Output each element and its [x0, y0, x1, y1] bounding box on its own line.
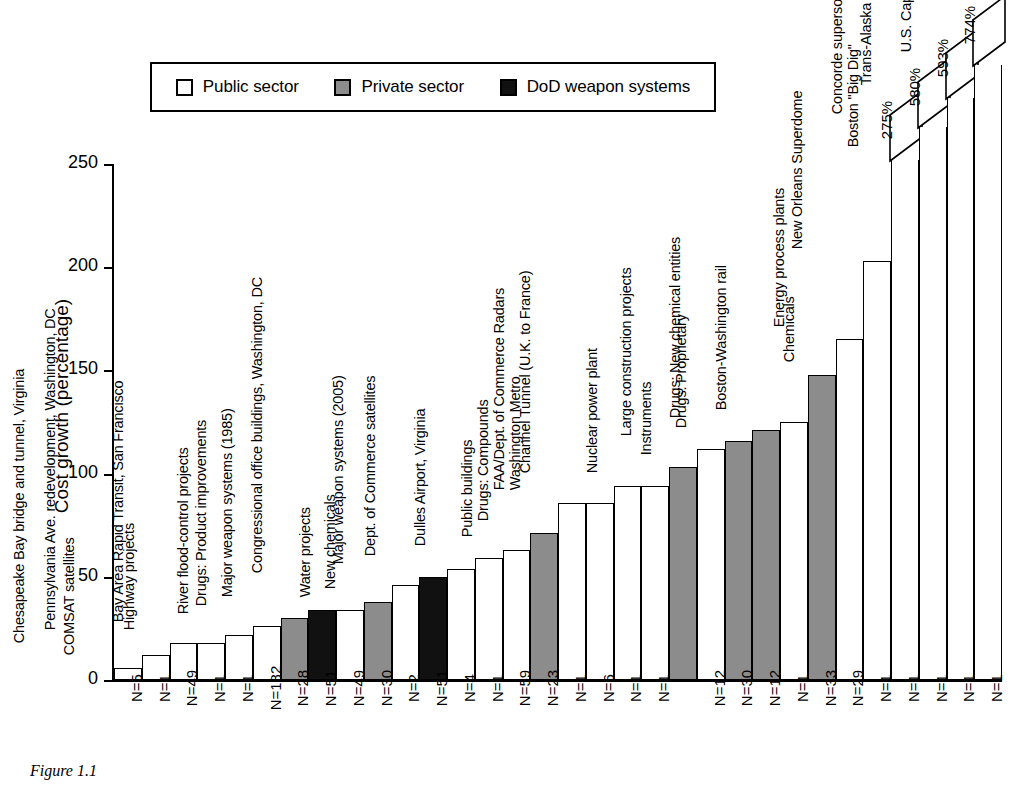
bar-category-label: Bay Area Rapid Transit, San Francisco [111, 381, 126, 623]
bar-item[interactable]: Congressional office buildings, Washingt… [392, 20, 420, 680]
bar-item[interactable]: Washington Metro [558, 20, 586, 680]
sample-size-cell: N=2 [392, 684, 420, 770]
bar-item[interactable]: Boston "Big Dig"275% [891, 20, 919, 680]
bar-category-label: Instruments [639, 382, 654, 456]
sample-size-cell: N=182 [253, 684, 281, 770]
y-tick-label: 250 [44, 152, 98, 173]
bar-item[interactable]: Trans-Alaska Pipeline System593% [947, 20, 975, 680]
sample-size-cell: N=1 [197, 684, 225, 770]
bar-public[interactable] [641, 486, 669, 680]
bar-public[interactable] [863, 261, 891, 680]
y-tick-mark [104, 370, 113, 372]
bar-item[interactable]: Nuclear power plant [641, 20, 669, 680]
sample-size-cell: N=49 [170, 684, 198, 770]
sample-size-cell: N=1 [863, 684, 891, 770]
bar-category-label: U.S. Capitol Visitor Center [899, 0, 914, 53]
bar-item[interactable]: New chemicals [364, 20, 392, 680]
bar-category-label: Congressional office buildings, Washingt… [250, 277, 265, 573]
bar-item[interactable]: Drugs: Compounds [530, 20, 558, 680]
bar-public[interactable] [891, 160, 919, 680]
y-tick-mark [104, 267, 113, 269]
bar-category-label: Large construction projects [619, 268, 634, 437]
axis-break-value: 593% [934, 32, 951, 84]
bar-public[interactable] [697, 449, 725, 680]
bar-category-label: Major weapon systems (2005) [331, 376, 346, 565]
bar-category-label: Nuclear power plant [585, 349, 600, 474]
bar-dod[interactable] [419, 577, 447, 680]
bar-public[interactable] [614, 486, 642, 680]
bar-item[interactable]: Dept. of Commerce satellites [447, 20, 475, 680]
bar-category-label: Drugs: Compounds [476, 399, 491, 521]
sample-size-cell: N=1 [919, 684, 947, 770]
bar-item[interactable]: Major weapon systems (2005) [419, 20, 447, 680]
bar-category-label: FAA/Dept. of Commerce Radars [491, 288, 506, 490]
sample-size-cell: N=1 [475, 684, 503, 770]
bar-category-label: Major weapon systems (1985) [220, 409, 235, 598]
sample-size-cell: N=28 [281, 684, 309, 770]
axis-break-value: 774% [961, 0, 978, 51]
bar-private[interactable] [669, 467, 697, 680]
bar-category-label: Drugs: Product improvements [194, 419, 209, 605]
sample-size-cell: N=1 [974, 684, 1002, 770]
sample-size-cell: N=51 [419, 684, 447, 770]
axis-break-value: 580% [906, 61, 923, 113]
sample-size-cell: N=59 [503, 684, 531, 770]
bar-category-label: COMSAT satellites [62, 538, 77, 656]
sample-size-cell: N=1 [142, 684, 170, 770]
sample-size-cell: N=4 [447, 684, 475, 770]
y-tick-label: 200 [44, 255, 98, 276]
bar-private[interactable] [364, 602, 392, 680]
sample-size-row: N=5N=1N=49N=1N=1N=182N=28N=51N=49N=30N=2… [114, 684, 1002, 770]
plot-area: COMSAT satellitesChesapeake Bay bridge a… [114, 20, 1002, 680]
bar-public[interactable] [503, 550, 531, 680]
bar-category-label: River flood-control projects [176, 447, 191, 614]
sample-size-cell [669, 684, 697, 770]
bar-item[interactable]: Concorde supersonic transport580% [919, 20, 947, 680]
bar-private[interactable] [808, 375, 836, 680]
sample-size-cell: N=51 [308, 684, 336, 770]
y-tick-mark [104, 164, 113, 166]
sample-size-cell: N=1 [780, 684, 808, 770]
bar-public[interactable] [974, 65, 1002, 680]
bar-category-label: Dulles Airport, Virginia [413, 408, 428, 546]
sample-size-cell: N=1 [558, 684, 586, 770]
bar-public[interactable] [447, 569, 475, 680]
bar-public[interactable] [392, 585, 420, 680]
bar-item[interactable]: Water projects [336, 20, 364, 680]
sample-size-cell: N=12 [752, 684, 780, 770]
bar-category-label: Pennsylvania Ave. redevelopment, Washing… [43, 309, 58, 631]
figure-container: Public sector Private sector DoD weapon … [0, 0, 1036, 786]
bar-item[interactable]: Drugs: New chemical entities [752, 20, 780, 680]
sample-size-cell: N=49 [336, 684, 364, 770]
bar-public[interactable] [947, 98, 975, 680]
bar-public[interactable] [919, 127, 947, 680]
sample-size-cell: N=1 [614, 684, 642, 770]
figure-caption: Figure 1.1 [30, 762, 97, 780]
sample-size-cell: N=30 [364, 684, 392, 770]
bar-category-label: Drugs: New chemical entities [668, 237, 683, 418]
sample-size-cell: N=5 [114, 684, 142, 770]
sample-size-cell: N=23 [530, 684, 558, 770]
bar-item[interactable]: Chesapeake Bay bridge and tunnel, Virgin… [142, 20, 170, 680]
bar-public[interactable] [558, 503, 586, 681]
bar-private[interactable] [725, 441, 753, 680]
bar-private[interactable] [530, 533, 558, 680]
bar-item[interactable]: Chemicals [808, 20, 836, 680]
sample-size-cell: N=33 [808, 684, 836, 770]
sample-size-cell: N=12 [697, 684, 725, 770]
bar-category-label: Concorde supersonic transport [829, 0, 844, 115]
sample-size-cell: N=1 [947, 684, 975, 770]
axis-break-value: 275% [878, 94, 895, 146]
bar-public[interactable] [836, 339, 864, 680]
sample-size-cell: N=6 [586, 684, 614, 770]
sample-size-cell: N=1 [891, 684, 919, 770]
bar-private[interactable] [752, 430, 780, 680]
bar-public[interactable] [475, 558, 503, 680]
bar-item[interactable]: U.S. Capitol Visitor Center774% [974, 20, 1002, 680]
bar-public[interactable] [586, 503, 614, 681]
bar-category-label: Chesapeake Bay bridge and tunnel, Virgin… [11, 369, 26, 643]
bar-category-label: Public buildings [460, 440, 475, 538]
sample-size-cell: N=30 [725, 684, 753, 770]
bar-category-label: Boston-Washington rail [714, 265, 729, 410]
bar-public[interactable] [780, 422, 808, 680]
